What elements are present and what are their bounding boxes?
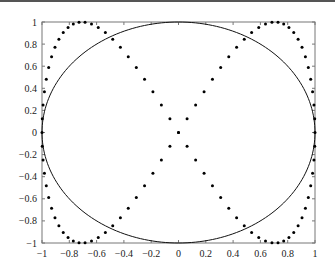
y-tick-label: 0.8: [25, 39, 38, 50]
data-point: [53, 216, 56, 219]
data-point: [282, 240, 285, 243]
data-point: [257, 236, 260, 239]
data-point: [104, 231, 107, 234]
data-point: [160, 104, 163, 107]
data-point: [143, 78, 146, 81]
data-point: [297, 224, 300, 227]
data-point: [72, 240, 75, 243]
data-point: [42, 158, 45, 161]
data-point: [62, 31, 65, 34]
data-point: [104, 31, 107, 34]
data-point: [194, 104, 197, 107]
x-tick-label: 0.8: [281, 248, 294, 259]
data-point: [168, 145, 171, 148]
data-point: [78, 21, 81, 24]
data-point: [151, 172, 154, 175]
data-point: [168, 117, 171, 120]
data-point: [287, 26, 290, 29]
y-tick-label: −1: [26, 238, 37, 249]
data-point: [186, 117, 189, 120]
data-point: [312, 158, 315, 161]
data-point: [119, 46, 122, 49]
data-point: [41, 145, 44, 148]
data-point: [309, 184, 312, 187]
data-point: [45, 78, 48, 81]
data-point: [177, 131, 180, 134]
y-tick-label: −0.2: [19, 149, 37, 160]
data-point: [57, 38, 60, 41]
data-point: [62, 231, 65, 234]
data-point: [219, 66, 222, 69]
data-point: [304, 207, 307, 210]
data-point: [250, 31, 253, 34]
data-point: [292, 31, 295, 34]
data-point: [287, 236, 290, 239]
data-point: [243, 38, 246, 41]
x-tick-label: 0.4: [227, 248, 240, 259]
data-point: [111, 224, 114, 227]
x-tick-label: −0.2: [142, 248, 160, 259]
data-point: [313, 117, 316, 120]
data-point: [67, 236, 70, 239]
data-point: [67, 26, 70, 29]
x-tick-label: 0.6: [254, 248, 267, 259]
y-tick-label: 1: [32, 17, 37, 28]
data-point: [57, 224, 60, 227]
data-point: [219, 196, 222, 199]
data-point: [50, 207, 53, 210]
data-point: [270, 241, 273, 244]
data-point: [84, 21, 87, 24]
data-point: [264, 240, 267, 243]
x-tick-label: −0.8: [60, 248, 78, 259]
y-tick-label: 0.4: [25, 83, 38, 94]
data-point: [41, 131, 44, 134]
data-point: [97, 236, 100, 239]
data-point: [45, 184, 48, 187]
data-point: [311, 90, 314, 93]
data-point: [41, 117, 44, 120]
data-point: [186, 145, 189, 148]
data-point: [235, 46, 238, 49]
data-point: [194, 158, 197, 161]
data-point: [307, 66, 310, 69]
data-point: [282, 22, 285, 25]
x-tick-label: 0: [176, 248, 181, 259]
data-point: [127, 55, 130, 58]
data-point: [135, 196, 138, 199]
data-point: [297, 38, 300, 41]
data-point: [90, 240, 93, 243]
data-point: [119, 216, 122, 219]
y-tick-label: −0.8: [19, 215, 37, 226]
data-point: [243, 224, 246, 227]
data-point: [127, 207, 130, 210]
x-tick-label: 1: [313, 248, 318, 259]
data-point: [211, 184, 214, 187]
data-point: [43, 90, 46, 93]
x-tick-label: −0.4: [115, 248, 133, 259]
data-point: [111, 38, 114, 41]
data-point: [135, 66, 138, 69]
y-tick-label: 0.2: [25, 105, 38, 116]
x-tick-label: −0.6: [88, 248, 106, 259]
data-point: [42, 104, 45, 107]
data-point: [203, 172, 206, 175]
data-point: [97, 26, 100, 29]
data-point: [143, 184, 146, 187]
data-point: [47, 66, 50, 69]
data-point: [72, 22, 75, 25]
data-point: [301, 46, 304, 49]
data-point: [307, 196, 310, 199]
data-point: [203, 90, 206, 93]
chart-canvas: −1−0.8−0.6−0.4−0.200.20.40.60.81−1−0.8−0…: [0, 0, 335, 272]
data-point: [84, 241, 87, 244]
data-point: [270, 21, 273, 24]
y-tick-label: 0.6: [25, 61, 38, 72]
data-point: [160, 158, 163, 161]
data-point: [227, 55, 230, 58]
data-point: [250, 231, 253, 234]
data-point: [301, 216, 304, 219]
y-tick-label: −0.4: [19, 171, 37, 182]
data-point: [235, 216, 238, 219]
data-point: [90, 22, 93, 25]
data-point: [277, 241, 280, 244]
